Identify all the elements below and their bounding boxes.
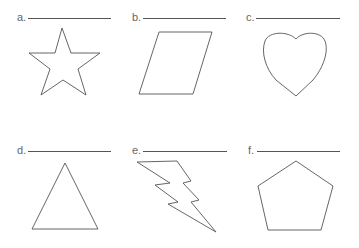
pentagon-icon bbox=[258, 161, 333, 230]
star-icon bbox=[29, 28, 100, 95]
triangle-icon bbox=[32, 163, 98, 229]
lightning-bolt-icon bbox=[137, 161, 216, 232]
heart-icon bbox=[263, 33, 326, 96]
parallelogram-icon bbox=[139, 32, 212, 94]
